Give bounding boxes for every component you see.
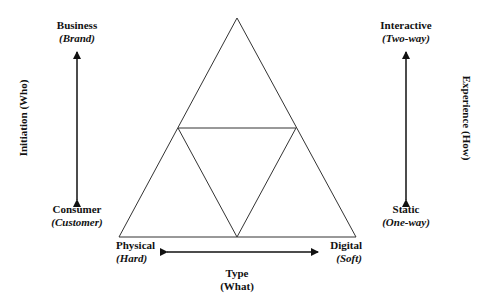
business-main: Business bbox=[47, 19, 107, 32]
type-axis-label: Type (What) bbox=[212, 267, 262, 293]
consumer-label: Consumer (Customer) bbox=[42, 203, 112, 229]
consumer-sub: (Customer) bbox=[42, 216, 112, 229]
physical-label: Physical (Hard) bbox=[116, 239, 166, 265]
business-label: Business (Brand) bbox=[47, 19, 107, 45]
inner-inverted-triangle bbox=[178, 128, 296, 237]
static-main: Static bbox=[376, 203, 436, 216]
static-label: Static (One-way) bbox=[376, 203, 436, 229]
interactive-label: Interactive (Two-way) bbox=[370, 19, 442, 45]
experience-axis-label: Experience (How) bbox=[461, 68, 473, 168]
interactive-main: Interactive bbox=[370, 19, 442, 32]
business-sub: (Brand) bbox=[47, 32, 107, 45]
static-sub: (One-way) bbox=[376, 216, 436, 229]
type-main: Type bbox=[212, 267, 262, 280]
physical-main: Physical bbox=[116, 239, 166, 252]
digital-main: Digital bbox=[316, 239, 362, 252]
type-sub: (What) bbox=[212, 280, 262, 293]
interactive-sub: (Two-way) bbox=[370, 32, 442, 45]
initiation-axis-label: Initiation (Who) bbox=[17, 73, 29, 163]
consumer-main: Consumer bbox=[42, 203, 112, 216]
physical-sub: (Hard) bbox=[116, 252, 166, 265]
digital-sub: (Soft) bbox=[316, 252, 362, 265]
digital-label: Digital (Soft) bbox=[316, 239, 362, 265]
